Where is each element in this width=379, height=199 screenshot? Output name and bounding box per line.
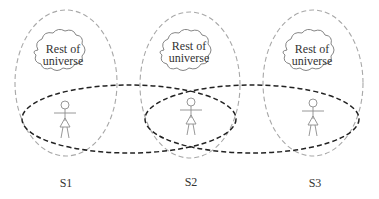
interaction-boundary-s2-s3 [145,85,359,153]
system-label-s3: S3 [300,176,330,191]
cloud-label-s3: Rest of universe [282,43,342,67]
person-icon-s1 [54,101,76,138]
cloud-label-s2: Rest of universe [159,40,219,64]
cloud-label-s1: Rest of universe [33,43,93,67]
systems-diagram [0,0,379,199]
cloud-label-line2: universe [159,52,219,64]
system-label-s1: S1 [51,176,81,191]
cloud-label-line2: universe [33,55,93,67]
observers [54,98,324,138]
system-label-s2: S2 [176,175,206,190]
person-icon-s3 [302,99,324,136]
interaction-boundaries [22,85,359,153]
interaction-boundary-s1-s2 [22,85,236,153]
person-icon-s2 [180,98,202,135]
cloud-label-line2: universe [282,55,342,67]
